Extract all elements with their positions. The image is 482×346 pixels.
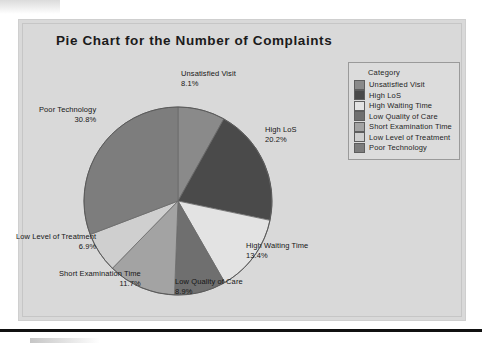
slice-label-name: Low Level of Treatment (16, 232, 96, 241)
slice-label-unsatisfied-visit: Unsatisfied Visit 8.1% (181, 69, 236, 88)
slice-label-name: Short Examination Time (59, 269, 141, 278)
slice-label-name: High LoS (265, 125, 297, 134)
slice-label-name: Low Quality of Care (175, 277, 243, 286)
slice-label-value: 13.4% (246, 251, 308, 261)
legend-swatch-icon (354, 90, 365, 100)
slice-label-value: 20.2% (265, 135, 297, 145)
slice-label-value: 8.9% (175, 287, 243, 297)
legend-swatch-icon (354, 132, 365, 142)
slice-label-name: Poor Technology (39, 105, 96, 114)
slice-label-high-los: High LoS 20.2% (265, 125, 297, 144)
legend-item-label: High Waiting Time (369, 101, 432, 110)
legend-item-low-level-of-treatment[interactable]: Low Level of Treatment (354, 133, 454, 142)
chart-legend: Category Unsatisfied Visit High LoS High… (348, 62, 460, 160)
legend-swatch-icon (354, 143, 365, 153)
scan-artifact-smudge (30, 338, 100, 343)
legend-item-label: High LoS (369, 91, 401, 100)
legend-item-short-examination-time[interactable]: Short Examination Time (354, 122, 454, 131)
legend-item-label: Unsatisfied Visit (369, 80, 425, 89)
page-root: Pie Chart for the Number of Complaints C… (0, 0, 482, 346)
legend-swatch-icon (354, 101, 365, 111)
slice-label-name: Unsatisfied Visit (181, 69, 236, 78)
page-divider-rule (0, 329, 482, 332)
slice-label-value: 30.8% (39, 115, 96, 125)
chart-panel: Pie Chart for the Number of Complaints C… (18, 19, 466, 321)
page-title: Pie Chart for the Number of Complaints (56, 33, 332, 48)
legend-item-low-quality-of-care[interactable]: Low Quality of Care (354, 112, 454, 121)
legend-item-poor-technology[interactable]: Poor Technology (354, 143, 454, 152)
slice-label-low-quality-of-care: Low Quality of Care 8.9% (175, 277, 243, 296)
legend-swatch-icon (354, 122, 365, 132)
legend-item-label: Low Quality of Care (369, 112, 438, 121)
scan-artifact-corner (0, 0, 60, 14)
slice-label-short-examination-time: Short Examination Time 11.7% (59, 269, 141, 288)
slice-label-poor-technology: Poor Technology 30.8% (39, 105, 96, 124)
legend-item-unsatisfied-visit[interactable]: Unsatisfied Visit (354, 80, 454, 89)
legend-item-label: Short Examination Time (369, 122, 452, 131)
pie-slice-group (84, 107, 272, 295)
legend-item-label: Low Level of Treatment (369, 133, 450, 142)
slice-label-value: 8.1% (181, 79, 236, 89)
slice-label-value: 11.7% (59, 279, 141, 289)
slice-label-high-waiting-time: High Waiting Time 13.4% (246, 241, 308, 260)
slice-label-value: 6.9% (16, 242, 96, 252)
legend-item-high-los[interactable]: High LoS (354, 91, 454, 100)
legend-swatch-icon (354, 111, 365, 121)
slice-label-name: High Waiting Time (246, 241, 308, 250)
legend-item-label: Poor Technology (369, 143, 427, 152)
legend-item-high-waiting-time[interactable]: High Waiting Time (354, 101, 454, 110)
legend-title: Category (368, 68, 454, 77)
slice-label-low-level-of-treatment: Low Level of Treatment 6.9% (16, 232, 96, 251)
legend-swatch-icon (354, 80, 365, 90)
